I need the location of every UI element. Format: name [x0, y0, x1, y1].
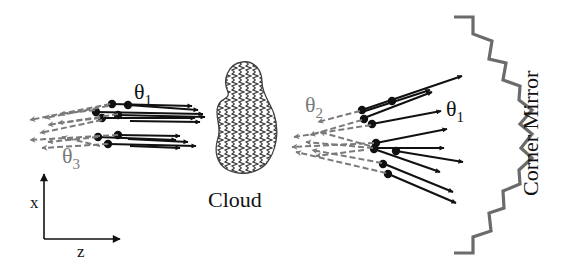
theta1-left-label: θ1 [134, 79, 152, 108]
cloud-label: Cloud [208, 187, 262, 212]
coordinate-axes [44, 174, 120, 239]
corner-mirror-label: Corner Mirror [518, 70, 543, 196]
cloud [210, 58, 282, 180]
theta2-label: θ2 [305, 92, 323, 121]
theta1-right-label: θ1 [446, 96, 464, 125]
axis-z-label: z [77, 242, 85, 261]
retroreflection-diagram: θ1 θ3 Cloud [0, 0, 572, 272]
theta3-label: θ3 [62, 143, 80, 172]
axis-x-label: x [30, 193, 39, 212]
